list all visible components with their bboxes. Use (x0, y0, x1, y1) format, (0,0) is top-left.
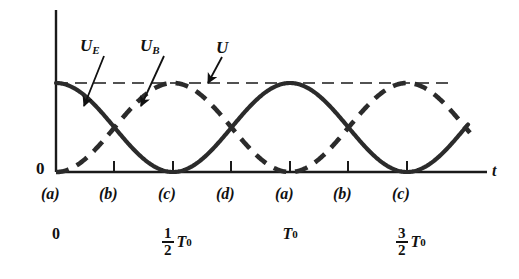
energy-oscillation-figure: UE UB U 0 t (a)(b)(c)(d)(a)(b)(c) 012T0T… (0, 0, 519, 279)
phase-label: (a) (275, 186, 294, 202)
annotation-arrows (84, 56, 222, 106)
time-label: 12T0 (162, 226, 192, 258)
time-label-symbol: T (411, 234, 421, 250)
time-label: 0 (52, 226, 60, 242)
annotation-arrow-u-b (141, 56, 164, 106)
fraction-denominator: 2 (162, 243, 174, 258)
curve-label-ub-sub: B (152, 44, 159, 56)
phase-label: (b) (333, 186, 352, 202)
time-label-subscript: 0 (420, 237, 426, 248)
time-label-subscript: 0 (292, 229, 298, 240)
curve-label-ue-base: U (80, 36, 92, 55)
phase-label: (c) (158, 186, 176, 202)
curve-label-ub-base: U (140, 36, 152, 55)
phase-label: (c) (392, 186, 410, 202)
fraction: 32 (396, 226, 408, 258)
curve-label-u-base: U (216, 38, 228, 57)
time-label-subscript: 0 (186, 237, 192, 248)
fraction-numerator: 3 (396, 226, 408, 241)
curve-label-ue: UE (80, 37, 100, 56)
plot-area (0, 0, 519, 279)
phase-label: (b) (99, 186, 118, 202)
time-label-value: 0 (52, 226, 60, 242)
fraction-denominator: 2 (396, 243, 408, 258)
time-label-symbol: T (177, 234, 187, 250)
x-axis-label: t (492, 163, 496, 179)
curve-label-u: U (216, 39, 228, 56)
curve-label-ub: UB (140, 37, 160, 56)
time-label: 32T0 (396, 226, 426, 258)
time-label: T0 (283, 226, 298, 242)
annotation-arrow-u (208, 57, 222, 83)
annotation-arrow-u-e (84, 56, 104, 106)
origin-label: 0 (36, 160, 45, 177)
phase-label: (d) (216, 186, 235, 202)
time-label-symbol: T (283, 226, 293, 242)
curve-label-ue-sub: E (92, 44, 99, 56)
fraction: 12 (162, 226, 174, 258)
phase-label: (a) (41, 186, 60, 202)
fraction-numerator: 1 (162, 226, 174, 241)
